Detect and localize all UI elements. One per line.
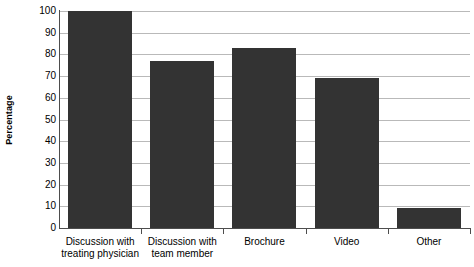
bar[interactable] bbox=[150, 61, 214, 228]
x-axis-category-labels: Discussion withtreating physicianDiscuss… bbox=[59, 236, 470, 267]
x-axis-category-label: Discussion withteam member bbox=[141, 236, 223, 260]
x-axis-category-label: Brochure bbox=[223, 236, 305, 248]
y-axis-tick-label: 50 bbox=[22, 115, 56, 125]
x-axis-line bbox=[59, 228, 471, 229]
y-axis-tick-label: 40 bbox=[22, 136, 56, 146]
x-axis-tick bbox=[388, 229, 389, 234]
x-axis-tick bbox=[141, 229, 142, 234]
x-axis-tick bbox=[306, 229, 307, 234]
bars-layer bbox=[59, 11, 470, 228]
y-axis-tick-label: 100 bbox=[22, 6, 56, 16]
y-axis-title-text: Percentage bbox=[4, 95, 14, 145]
bar-slot bbox=[59, 11, 141, 228]
y-axis-tick-label: 30 bbox=[22, 158, 56, 168]
y-axis-tick-label: 10 bbox=[22, 201, 56, 211]
x-axis-category-label: Other bbox=[388, 236, 470, 248]
y-axis-title: Percentage bbox=[0, 60, 18, 180]
bar-slot bbox=[388, 11, 470, 228]
y-axis-tick-label: 80 bbox=[22, 49, 56, 59]
y-axis-tick-label: 20 bbox=[22, 180, 56, 190]
y-axis-tick-label: 60 bbox=[22, 93, 56, 103]
bar-slot bbox=[141, 11, 223, 228]
bar[interactable] bbox=[397, 208, 461, 228]
x-axis-category-label: Discussion withtreating physician bbox=[59, 236, 141, 260]
bar[interactable] bbox=[315, 78, 379, 228]
bar-slot bbox=[306, 11, 388, 228]
y-axis-tick-labels: 1009080706050403020100 bbox=[20, 0, 56, 240]
y-axis-tick-label: 0 bbox=[22, 223, 56, 233]
y-axis-tick-label: 70 bbox=[22, 71, 56, 81]
x-axis-tick bbox=[223, 229, 224, 234]
bar-chart: Percentage 1009080706050403020100 Discus… bbox=[0, 0, 474, 267]
y-axis-tick-label: 90 bbox=[22, 28, 56, 38]
bar[interactable] bbox=[232, 48, 296, 228]
bar[interactable] bbox=[68, 11, 132, 228]
bar-slot bbox=[223, 11, 305, 228]
x-axis-category-label: Video bbox=[306, 236, 388, 248]
x-axis-tick bbox=[470, 229, 471, 234]
